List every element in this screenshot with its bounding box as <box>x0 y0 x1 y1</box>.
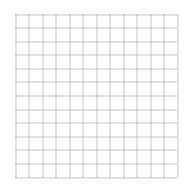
dotted-grid <box>0 0 193 189</box>
